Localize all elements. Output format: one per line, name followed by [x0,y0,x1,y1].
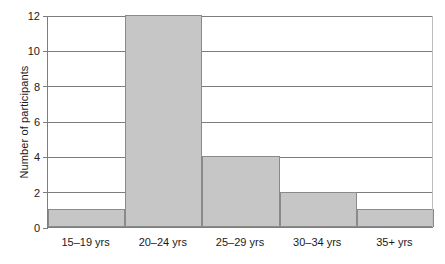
y-axis-tick [43,16,48,17]
y-axis-tick [43,228,48,229]
y-axis-tick [43,51,48,52]
x-axis-tick-label: 15–19 yrs [47,236,124,248]
y-axis-tick-label: 4 [34,151,40,163]
y-axis-tick-label: 10 [28,45,40,57]
bar [125,15,202,227]
y-axis-tick-label: 6 [34,116,40,128]
bar [357,209,434,227]
gridline [48,16,433,17]
bar [202,156,279,227]
gridline [48,51,433,52]
gridline [48,86,433,87]
y-axis-tick [43,157,48,158]
x-axis-tick-label: 30–34 yrs [279,236,356,248]
x-axis-tick-label: 35+ yrs [356,236,433,248]
bar [280,192,357,227]
histogram-figure: Number of participants 024681012 15–19 y… [0,0,445,264]
y-axis-tick-label: 12 [28,10,40,22]
y-axis-tick-label: 0 [34,222,40,234]
plot-area: 024681012 [47,16,433,228]
x-axis-tick-label: 20–24 yrs [124,236,201,248]
gridline [48,122,433,123]
bar [48,209,125,227]
y-axis-tick [43,192,48,193]
x-axis-tick-label: 25–29 yrs [201,236,278,248]
y-axis-tick [43,86,48,87]
y-axis-tick-label: 8 [34,81,40,93]
y-axis-tick [43,122,48,123]
y-axis-tick-label: 2 [34,187,40,199]
